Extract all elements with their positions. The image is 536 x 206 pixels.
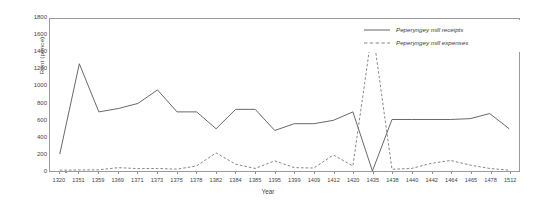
x-tick-mark — [412, 172, 413, 174]
x-tick-mark — [275, 172, 276, 174]
legend-item-expenses: Peperyngey mill expenses — [364, 36, 532, 49]
y-tick-label: 400 — [21, 134, 47, 140]
y-tick-label: 1600 — [21, 31, 47, 37]
x-tick-mark — [196, 172, 197, 174]
y-tick-label: 1200 — [21, 65, 47, 71]
y-tick-label: 200 — [21, 151, 47, 157]
x-tick-mark — [216, 172, 217, 174]
x-tick-mark — [471, 172, 472, 174]
y-tick-label: 1000 — [21, 82, 47, 88]
x-tick-mark — [137, 172, 138, 174]
x-tick-mark — [118, 172, 119, 174]
y-tick-label: 1800 — [21, 14, 47, 20]
x-tick-mark — [235, 172, 236, 174]
x-tick-mark — [177, 172, 178, 174]
chart-legend: Peperyngey mill receipts Peperyngey mill… — [360, 20, 534, 52]
x-tick-mark — [334, 172, 335, 174]
x-tick-mark — [491, 172, 492, 174]
y-axis-ticks: 020040060080010001200140016001800 — [18, 0, 47, 206]
legend-label-expenses: Peperyngey mill expenses — [396, 39, 468, 46]
y-tick-label: 800 — [21, 100, 47, 106]
x-tick-mark — [294, 172, 295, 174]
x-tick-mark — [78, 172, 79, 174]
x-tick-label: 1512 — [495, 177, 525, 183]
legend-label-receipts: Peperyngey mill receipts — [396, 26, 463, 33]
x-tick-mark — [451, 172, 452, 174]
x-tick-mark — [373, 172, 374, 174]
y-tick-label: 0 — [21, 168, 47, 174]
series-line-receipts — [60, 64, 509, 171]
legend-swatch-solid-icon — [364, 27, 390, 33]
legend-swatch-dashed-icon — [364, 40, 390, 46]
x-tick-mark — [157, 172, 158, 174]
x-tick-mark — [432, 172, 433, 174]
x-tick-mark — [255, 172, 256, 174]
y-tick-label: 600 — [21, 117, 47, 123]
x-tick-mark — [510, 172, 511, 174]
x-tick-mark — [98, 172, 99, 174]
y-tick-label: 1400 — [21, 48, 47, 54]
x-tick-mark — [314, 172, 315, 174]
x-tick-mark — [353, 172, 354, 174]
x-axis-title: Year — [0, 188, 536, 195]
x-tick-mark — [392, 172, 393, 174]
legend-item-receipts: Peperyngey mill receipts — [364, 23, 532, 36]
x-tick-mark — [59, 172, 60, 174]
chart-figure: Rent (pence) 020040060080010001200140016… — [0, 0, 536, 206]
